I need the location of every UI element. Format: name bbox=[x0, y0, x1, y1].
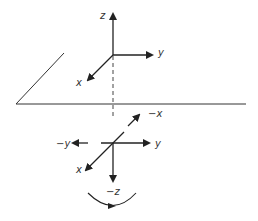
y-label: y bbox=[157, 47, 165, 58]
x-label-lower: x bbox=[75, 164, 82, 175]
lower-axes: −x −y y x −z bbox=[56, 108, 162, 197]
neg-z-label: −z bbox=[106, 186, 120, 197]
mirror-plane bbox=[16, 53, 246, 104]
upper-axes: z y x bbox=[75, 10, 165, 88]
neg-y-label: −y bbox=[56, 138, 71, 149]
neg-x-label: −x bbox=[148, 108, 162, 119]
x-label: x bbox=[75, 77, 82, 88]
coordinate-reflection-diagram: z y x −x −y y x −z bbox=[0, 0, 258, 221]
z-label: z bbox=[99, 10, 106, 21]
y-label-lower: y bbox=[154, 138, 162, 149]
